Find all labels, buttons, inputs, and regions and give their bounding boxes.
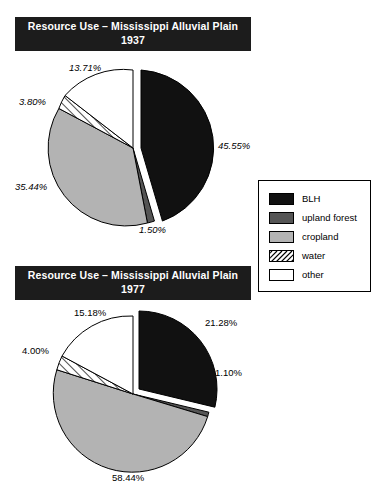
chart-1-title-line2: 1937	[15, 34, 251, 48]
legend-item-other[interactable]: other	[269, 265, 370, 284]
chart-2-label-blh: 21.28%	[205, 317, 237, 328]
legend-swatch-upland-forest	[269, 212, 294, 224]
chart-1-label-blh: 45.55%	[218, 140, 250, 151]
legend-label-cropland: cropland	[302, 231, 338, 242]
pie-chart-1977	[20, 308, 250, 486]
chart-1-title-line1: Resource Use – Mississippi Alluvial Plai…	[28, 20, 238, 32]
chart-2-title: Resource Use – Mississippi Alluvial Plai…	[15, 266, 251, 300]
pie-2-slices	[53, 311, 217, 472]
chart-1-label-upland-forest: 1.50%	[139, 224, 166, 235]
legend-item-upland-forest[interactable]: upland forest	[269, 208, 370, 227]
slice-blh-1937[interactable]	[141, 70, 214, 221]
chart-1-label-water: 3.80%	[19, 96, 46, 107]
chart-1-title: Resource Use – Mississippi Alluvial Plai…	[15, 17, 251, 51]
chart-1-label-other: 13.71%	[69, 62, 101, 73]
chart-2-title-line2: 1977	[15, 283, 251, 297]
legend-swatch-blh	[269, 193, 294, 205]
legend-item-blh[interactable]: BLH	[269, 189, 370, 208]
chart-2-label-cropland: 58.44%	[112, 472, 144, 483]
chart-2-label-other: 15.18%	[74, 307, 106, 318]
legend-swatch-water	[269, 250, 294, 262]
chart-2-label-upland-forest: 1.10%	[215, 367, 242, 378]
legend: BLH upland forest cropland water	[258, 180, 371, 292]
pie-chart-1937	[20, 62, 250, 240]
pie-1-slices	[48, 69, 213, 226]
chart-1-label-cropland: 35.44%	[15, 181, 47, 192]
legend-label-blh: BLH	[302, 193, 320, 204]
chart-2-label-water: 4.00%	[22, 345, 49, 356]
legend-label-water: water	[302, 250, 325, 261]
legend-swatch-cropland	[269, 231, 294, 243]
legend-label-upland-forest: upland forest	[302, 212, 357, 223]
legend-item-water[interactable]: water	[269, 246, 370, 265]
legend-item-cropland[interactable]: cropland	[269, 227, 370, 246]
legend-label-other: other	[302, 269, 324, 280]
chart-2-title-line1: Resource Use – Mississippi Alluvial Plai…	[28, 269, 238, 281]
legend-swatch-other	[269, 269, 294, 281]
